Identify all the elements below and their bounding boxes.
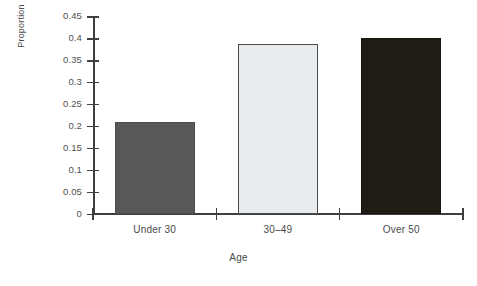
y-tick-label: 0.35 [63, 54, 82, 65]
bar-over-50 [361, 38, 441, 214]
y-axis-line [93, 17, 95, 215]
plot-area: 00.050.10.150.20.250.30.350.40.45 Under … [0, 0, 477, 286]
y-tick-label: 0.15 [63, 142, 82, 153]
x-category-label: Under 30 [93, 224, 216, 235]
y-tick: 0.3 [87, 82, 99, 83]
y-tick: 0.45 [87, 16, 99, 17]
x-tick [216, 208, 217, 220]
x-tick [462, 208, 463, 220]
y-tick-label: 0.4 [68, 32, 82, 43]
y-tick: 0.35 [87, 60, 99, 61]
y-tick-label: 0.2 [68, 120, 82, 131]
bar-30-49 [238, 44, 318, 214]
x-axis-title: Age [0, 252, 477, 263]
y-tick-label: 0.05 [63, 186, 82, 197]
y-tick: 0.4 [87, 38, 99, 39]
x-tick [339, 208, 340, 220]
y-tick-label: 0.3 [68, 76, 82, 87]
x-category-label: Over 50 [340, 224, 463, 235]
y-tick-label: 0.45 [63, 10, 82, 21]
y-tick-label: 0.1 [68, 164, 82, 175]
y-tick: 0.05 [87, 192, 99, 193]
y-tick: 0.1 [87, 170, 99, 171]
y-tick: 0.2 [87, 126, 99, 127]
bar-under-30 [115, 122, 195, 214]
x-category-label: 30–49 [216, 224, 339, 235]
y-tick-label: 0 [77, 208, 82, 219]
x-tick [92, 208, 93, 220]
bar-chart: Proportion 00.050.10.150.20.250.30.350.4… [0, 0, 477, 286]
y-tick: 0.15 [87, 148, 99, 149]
y-tick-label: 0.25 [63, 98, 82, 109]
y-tick: 0.25 [87, 104, 99, 105]
